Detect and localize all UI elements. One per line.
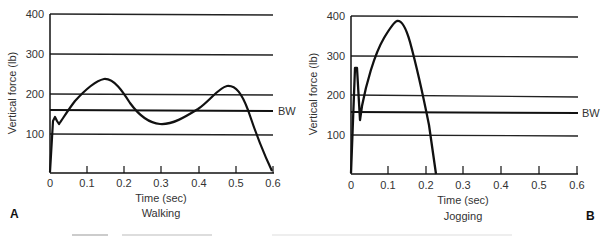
bw-line	[50, 110, 273, 111]
y-axis-label: Vertical force (lb)	[307, 53, 319, 136]
xtick-0: 0	[348, 179, 354, 191]
x-ticks	[87, 166, 273, 173]
xtick-0.1: 0.1	[79, 177, 94, 189]
xtick-0: 0	[47, 177, 53, 189]
xtick-0.2: 0.2	[116, 177, 131, 189]
x-axis-label: Time (sec)	[135, 192, 187, 204]
ytick-300: 300	[26, 48, 44, 60]
x-ticks	[388, 166, 577, 174]
gridline-400	[50, 14, 273, 15]
ytick-400: 400	[26, 8, 44, 20]
xtick-0.3: 0.3	[153, 177, 168, 189]
walking-force-curve	[50, 79, 272, 172]
xtick-0.5: 0.5	[531, 179, 546, 191]
x-axis-label: Time (sec)	[437, 194, 489, 206]
gridline-300	[351, 56, 578, 57]
xtick-0.6: 0.6	[569, 179, 584, 191]
ytick-200: 200	[26, 88, 44, 100]
chart-walking: 400 300 200 100 0 0.1 0.2 0.3 0.4 0.5 0.…	[6, 8, 296, 221]
bw-line	[351, 112, 578, 113]
ytick-200: 200	[327, 89, 345, 101]
chart-title-walking: Walking	[142, 207, 181, 219]
y-axis-label: Vertical force (lb)	[6, 52, 18, 135]
panel-label-b: B	[586, 209, 595, 223]
xtick-0.1: 0.1	[380, 179, 395, 191]
gridline-200	[351, 95, 578, 97]
xtick-0.6: 0.6	[265, 177, 280, 189]
xtick-0.3: 0.3	[455, 179, 470, 191]
figure: 400 300 200 100 0 0.1 0.2 0.3 0.4 0.5 0.…	[0, 0, 605, 236]
ytick-100: 100	[26, 128, 44, 140]
chart-jogging: 400 300 200 100 0 0.1 0.2 0.3 0.4 0.5 0.…	[307, 10, 600, 223]
ytick-100: 100	[327, 129, 345, 141]
panel-label-a: A	[10, 207, 19, 221]
bw-label: BW	[278, 105, 296, 117]
xtick-0.5: 0.5	[228, 177, 243, 189]
chart-title-jogging: Jogging	[444, 210, 483, 222]
xtick-0.4: 0.4	[191, 177, 206, 189]
ytick-400: 400	[327, 10, 345, 22]
jogging-force-curve	[351, 21, 436, 174]
gridline-300	[50, 54, 273, 55]
xtick-0.4: 0.4	[493, 179, 508, 191]
gridline-400	[351, 16, 578, 17]
bw-label: BW	[582, 107, 600, 119]
xtick-0.2: 0.2	[418, 179, 433, 191]
figure-caption-cutoff	[72, 229, 512, 236]
ytick-300: 300	[327, 50, 345, 62]
gridline-100	[351, 135, 578, 136]
gridline-100	[50, 134, 273, 135]
